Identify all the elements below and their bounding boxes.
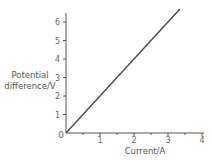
y-axis-label: Potential difference/V [0,70,60,92]
axes [63,13,204,136]
y-tick-label: 1 [55,111,60,120]
data-series [66,9,180,133]
data-line [66,9,180,133]
y-axis-label-line2: difference/V [0,81,60,92]
tick-labels: 12341234560 [55,18,205,145]
x-tick-label: 3 [165,136,170,145]
x-tick-label: 4 [199,136,204,145]
y-tick-label: 6 [55,18,60,27]
x-tick-label: 2 [131,136,136,145]
origin-label: 0 [58,130,64,140]
x-axis-label: Current/A [110,146,180,156]
y-tick-label: 4 [55,55,60,64]
y-tick-label: 5 [55,37,60,46]
y-tick-label: 2 [55,92,60,101]
y-axis-label-line1: Potential [0,70,60,81]
x-tick-label: 1 [97,136,102,145]
